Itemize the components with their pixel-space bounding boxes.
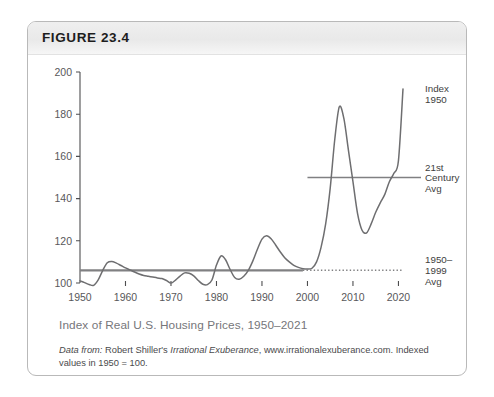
x-tick-label: 2010 xyxy=(341,291,365,303)
housing-index-line xyxy=(80,89,403,286)
x-axis: 19501960197019801990200020102020 xyxy=(68,281,410,303)
x-tick-label: 1980 xyxy=(205,291,229,303)
figure-caption: Index of Real U.S. Housing Prices, 1950–… xyxy=(59,318,307,332)
chart-plot-region: 100120140160180200 195019601970198019902… xyxy=(28,55,467,323)
chart-annotations: Index195021stCenturyAvg1950–1999Avg xyxy=(403,83,459,286)
annotation-1950-1999-avg-line: 1999 xyxy=(425,265,447,276)
figure-card: FIGURE 23.4 100120140160180200 195019601… xyxy=(27,21,467,376)
annotation-index-1950-line: Index xyxy=(425,83,449,94)
y-tick-label: 160 xyxy=(54,150,72,162)
x-tick-label: 1990 xyxy=(250,291,274,303)
annotation-1950-1999-avg-line: 1950– xyxy=(425,254,453,265)
y-tick-label: 180 xyxy=(54,108,72,120)
annotation-21st-century-avg-line: Century xyxy=(425,172,459,183)
y-tick-label: 120 xyxy=(54,235,72,247)
y-tick-label: 200 xyxy=(54,66,72,78)
x-tick-label: 1970 xyxy=(159,291,183,303)
x-tick-label: 1960 xyxy=(114,291,138,303)
annotation-21st-century-avg-line: Avg xyxy=(425,183,442,194)
figure-source-note: Data from: Robert Shiller's Irrational E… xyxy=(59,344,455,371)
source-author: Robert Shiller's xyxy=(105,345,168,355)
annotation-index-1950-line: 1950 xyxy=(425,94,447,105)
x-tick-label: 1950 xyxy=(68,291,92,303)
y-tick-label: 140 xyxy=(54,192,72,204)
source-work-title: Irrational Exuberance xyxy=(170,345,258,355)
x-tick-label: 2020 xyxy=(387,291,411,303)
y-tick-label: 100 xyxy=(54,277,72,289)
y-axis: 100120140160180200 xyxy=(54,66,80,289)
data-series-line xyxy=(80,89,403,286)
x-tick-label: 2000 xyxy=(296,291,320,303)
annotation-21st-century-avg-line: 21st xyxy=(425,162,444,173)
source-prefix: Data from: xyxy=(59,345,102,355)
annotation-1950-1999-avg-line: Avg xyxy=(425,276,442,287)
figure-number-label: FIGURE 23.4 xyxy=(42,30,130,45)
housing-price-line-chart: 100120140160180200 195019601970198019902… xyxy=(28,55,467,323)
